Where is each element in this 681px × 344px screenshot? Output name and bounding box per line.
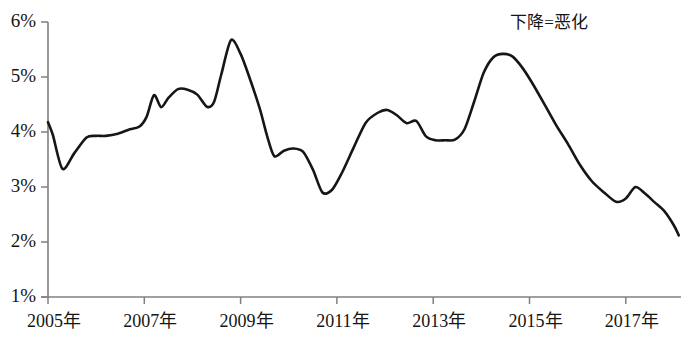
x-tick-label: 2015年 bbox=[509, 311, 563, 331]
x-tick-label: 2007年 bbox=[123, 311, 177, 331]
x-tick-label: 2017年 bbox=[605, 311, 659, 331]
y-axis-tick-labels: 6%5%4%3%2%1% bbox=[11, 10, 37, 306]
y-tick-label: 3% bbox=[11, 175, 37, 196]
y-tick-label: 6% bbox=[11, 10, 37, 31]
y-tick-label: 4% bbox=[11, 120, 37, 141]
y-tick-label: 5% bbox=[11, 65, 37, 86]
y-tick-label: 2% bbox=[11, 230, 37, 251]
data-series-line bbox=[48, 40, 679, 236]
x-tick-label: 2005年 bbox=[27, 311, 81, 331]
x-axis-tick-labels: 2005年2007年2009年2011年2013年2015年2017年 bbox=[27, 311, 659, 331]
x-tick-label: 2013年 bbox=[412, 311, 466, 331]
y-tick-label: 1% bbox=[11, 285, 37, 306]
chart-container: 6%5%4%3%2%1% 2005年2007年2009年2011年2013年20… bbox=[0, 0, 681, 344]
x-tick-label: 2009年 bbox=[220, 311, 274, 331]
x-axis-tick-marks bbox=[48, 297, 626, 304]
chart-annotation-note: 下降=恶化 bbox=[510, 13, 588, 32]
y-axis-tick-marks bbox=[41, 22, 48, 297]
line-chart-figure: 6%5%4%3%2%1% 2005年2007年2009年2011年2013年20… bbox=[0, 0, 681, 344]
x-tick-label: 2011年 bbox=[316, 311, 369, 331]
